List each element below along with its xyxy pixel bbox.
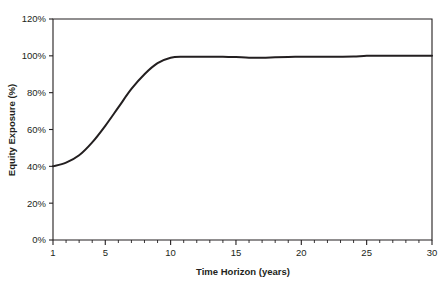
x-tick-label: 30 — [427, 247, 438, 258]
y-tick-label: 100% — [22, 50, 47, 61]
y-tick-label: 120% — [22, 13, 47, 24]
x-tick-label: 1 — [50, 247, 55, 258]
x-tick-label: 15 — [231, 247, 242, 258]
y-tick-label: 60% — [27, 124, 47, 135]
x-tick-label: 20 — [296, 247, 307, 258]
x-tick-label: 25 — [361, 247, 372, 258]
y-tick-label: 80% — [27, 87, 47, 98]
chart-canvas: 0%20%40%60%80%100%120% 151015202530 Time… — [0, 0, 448, 283]
equity-glide-path-chart: 0%20%40%60%80%100%120% 151015202530 Time… — [0, 0, 448, 283]
y-tick-label: 20% — [27, 198, 47, 209]
x-tick-label: 5 — [103, 247, 108, 258]
x-tick-label: 10 — [165, 247, 176, 258]
y-axis-title: Equity Exposure (%) — [6, 84, 17, 176]
x-axis-title: Time Horizon (years) — [196, 266, 290, 277]
y-tick-label: 40% — [27, 161, 47, 172]
y-tick-label: 0% — [32, 234, 46, 245]
